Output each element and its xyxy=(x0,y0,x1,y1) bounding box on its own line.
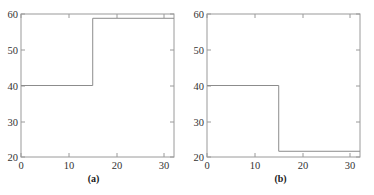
figure-container: 60 50 40 30 20 0 10 20 30 (a) xyxy=(0,0,374,195)
x-tick-label-10-b: 10 xyxy=(250,160,261,171)
y-tick-label-40-a: 40 xyxy=(8,81,19,92)
y-tick-label-50-b: 50 xyxy=(194,45,205,56)
plot-b: 60 50 40 30 20 0 10 20 30 xyxy=(187,0,374,195)
x-tick-label-10-a: 10 xyxy=(64,160,75,171)
x-tick-label-30-b: 30 xyxy=(345,160,356,171)
x-tick-label-20-a: 20 xyxy=(112,160,123,171)
y-tick-label-40-b: 40 xyxy=(194,81,205,92)
panel-b: 60 50 40 30 20 0 10 20 30 (b) xyxy=(187,0,374,195)
panel-a: 60 50 40 30 20 0 10 20 30 (a) xyxy=(0,0,187,195)
x-tick-label-0-b: 0 xyxy=(204,160,209,171)
y-tick-label-30-a: 30 xyxy=(8,117,19,128)
panel-caption-b: (b) xyxy=(187,173,374,184)
x-tick-label-0-a: 0 xyxy=(18,160,23,171)
y-tick-label-60-b: 60 xyxy=(194,9,205,20)
y-tick-label-20-b: 20 xyxy=(194,152,205,163)
data-series-step-up xyxy=(21,18,174,85)
x-tick-label-20-b: 20 xyxy=(298,160,309,171)
plot-a: 60 50 40 30 20 0 10 20 30 xyxy=(0,0,187,195)
panel-caption-a: (a) xyxy=(0,173,187,184)
x-tick-label-30-a: 30 xyxy=(159,160,170,171)
y-tick-label-50-a: 50 xyxy=(8,45,19,56)
data-series-step-down xyxy=(207,86,360,152)
y-tick-label-60-a: 60 xyxy=(8,9,19,20)
y-tick-label-20-a: 20 xyxy=(8,152,19,163)
y-tick-label-30-b: 30 xyxy=(194,117,205,128)
